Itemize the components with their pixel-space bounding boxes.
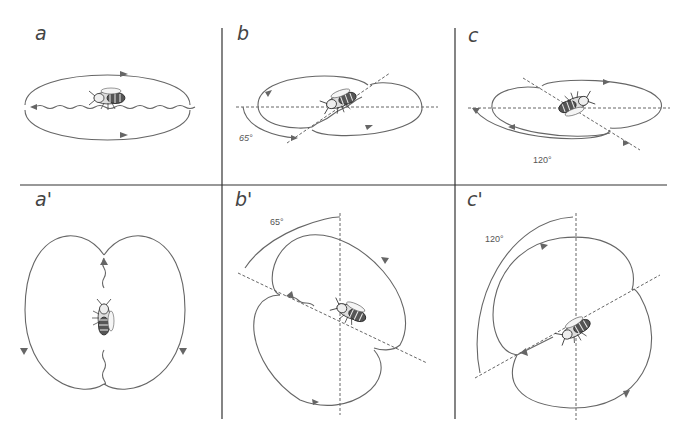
angle-label-c-prime: 120°	[485, 234, 504, 244]
panel-label-b-prime: b'	[235, 188, 252, 210]
angle-label-b: 65°	[239, 133, 253, 143]
panel-b-diagram	[236, 73, 438, 143]
panel-label-a: a	[35, 22, 47, 44]
panel-label-a-prime: a'	[35, 188, 52, 210]
dance-diagram	[0, 0, 683, 441]
panel-c-diagram	[468, 78, 670, 150]
panel-b-prime-diagram	[238, 213, 427, 415]
panel-a-prime-diagram	[20, 236, 187, 389]
angle-label-c: 120°	[533, 155, 552, 165]
panel-label-b: b	[237, 22, 249, 44]
angle-label-b-prime: 65°	[270, 217, 284, 227]
panel-label-c: c	[468, 24, 478, 46]
panel-c-prime-diagram	[475, 213, 660, 420]
panel-a-diagram	[25, 71, 195, 140]
panel-label-c-prime: c'	[467, 188, 483, 210]
